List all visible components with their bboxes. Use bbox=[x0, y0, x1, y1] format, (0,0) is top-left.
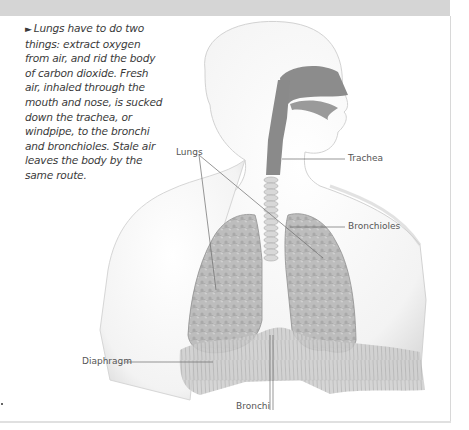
label-trachea: Trachea bbox=[348, 153, 383, 163]
label-bronchi: Bronchi bbox=[236, 401, 270, 411]
figure-caption: ►Lungs have to do two things: extract ox… bbox=[25, 21, 165, 183]
label-lungs: Lungs bbox=[176, 147, 203, 157]
triangle-arrow-icon: ► bbox=[25, 24, 32, 34]
label-diaphragm: Diaphragm bbox=[82, 356, 132, 366]
label-bronchioles: Bronchioles bbox=[348, 221, 400, 231]
caption-text: Lungs have to do two things: extract oxy… bbox=[25, 22, 162, 181]
stray-dot bbox=[1, 403, 3, 405]
